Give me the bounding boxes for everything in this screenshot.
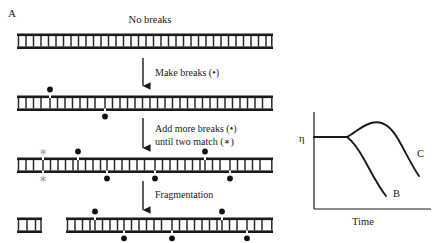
break-marker [121, 235, 127, 241]
dna-fragment-large [66, 209, 273, 242]
dna-strand-more-breaks: ∗ ∗ [17, 146, 273, 184]
break-marker [47, 87, 53, 93]
break-marker [227, 176, 233, 182]
break-marker [219, 209, 225, 215]
dna-strand-first-breaks [17, 87, 273, 120]
break-marker [152, 176, 158, 182]
chart-curve-b [347, 137, 386, 196]
viscosity-time-chart [314, 112, 431, 209]
dna-strand-no-breaks [17, 34, 273, 50]
break-marker [169, 235, 175, 241]
break-marker [92, 209, 98, 215]
figure-panel-a: A No breaks Make breaks (•) Add more bre… [0, 0, 438, 243]
match-marker-top: ∗ [39, 146, 47, 157]
figure-graphics: ∗ ∗ [0, 0, 438, 243]
break-marker [75, 149, 81, 155]
break-marker [244, 235, 250, 241]
match-marker-bottom: ∗ [39, 173, 47, 184]
dna-fragment-small [17, 218, 42, 234]
break-marker [104, 176, 110, 182]
break-marker [102, 114, 108, 120]
break-marker [202, 149, 208, 155]
